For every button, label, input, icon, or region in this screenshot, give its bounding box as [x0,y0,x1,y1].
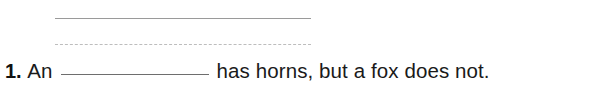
question-number: 1. [5,59,21,83]
question-row: 1. An has horns, but a fox does not. [5,58,590,88]
worksheet-question-block: 1. An has horns, but a fox does not. [0,0,592,100]
question-lead-text: An [27,59,52,83]
question-tail-text: has horns, but a fox does not. [217,59,490,83]
handwriting-guide-solid-line [55,18,311,19]
handwriting-guide-dashed-line [55,44,311,45]
answer-blank-input[interactable] [61,58,209,78]
